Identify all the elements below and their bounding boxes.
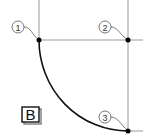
callout-leader-1 — [24, 27, 39, 40]
callout-3-label: 3 — [102, 113, 107, 123]
callout-1-label: 1 — [15, 23, 20, 33]
panel-label: B — [22, 106, 41, 124]
point-2-dot — [126, 38, 131, 43]
callout-leader-2 — [111, 27, 128, 40]
callout-1: 1 — [12, 21, 24, 33]
panel-label-text: B — [25, 106, 35, 123]
point-3-dot — [126, 129, 131, 134]
callout-2-label: 2 — [102, 23, 107, 33]
callout-2: 2 — [99, 21, 111, 33]
arc-construction-diagram: 1 2 3 B — [0, 0, 150, 136]
point-1-dot — [37, 38, 42, 43]
callout-leader-3 — [111, 117, 128, 131]
callout-3: 3 — [99, 111, 111, 123]
quarter-arc — [39, 40, 128, 131]
